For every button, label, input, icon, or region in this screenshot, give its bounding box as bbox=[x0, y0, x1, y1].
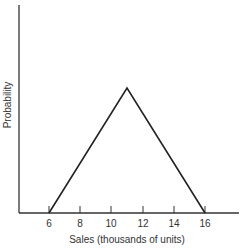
x-tick-labels: 6 8 10 12 14 16 bbox=[46, 218, 211, 229]
chart-canvas: 6 8 10 12 14 16 Sales (thousands of unit… bbox=[0, 0, 244, 248]
x-ticks bbox=[49, 206, 205, 213]
tick-label-16: 16 bbox=[199, 218, 211, 229]
tick-label-14: 14 bbox=[168, 218, 180, 229]
tick-label-12: 12 bbox=[137, 218, 149, 229]
tick-label-6: 6 bbox=[46, 218, 52, 229]
y-axis-title: Probability bbox=[2, 82, 13, 129]
tick-label-8: 8 bbox=[77, 218, 83, 229]
x-axis-title: Sales (thousands of units) bbox=[69, 234, 185, 245]
tick-label-10: 10 bbox=[105, 218, 117, 229]
triangular-distribution-line bbox=[49, 88, 205, 213]
